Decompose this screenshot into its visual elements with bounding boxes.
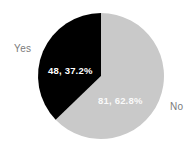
pie-data-label-yes: 48, 37.2% <box>48 65 93 76</box>
pie-chart-canvas <box>0 0 195 146</box>
pie-category-label-no: No <box>170 101 184 112</box>
pie-chart-figure: Yes No 48, 37.2% 81, 62.8% <box>0 0 195 146</box>
pie-data-label-no: 81, 62.8% <box>98 95 143 106</box>
pie-category-label-yes: Yes <box>14 43 32 54</box>
